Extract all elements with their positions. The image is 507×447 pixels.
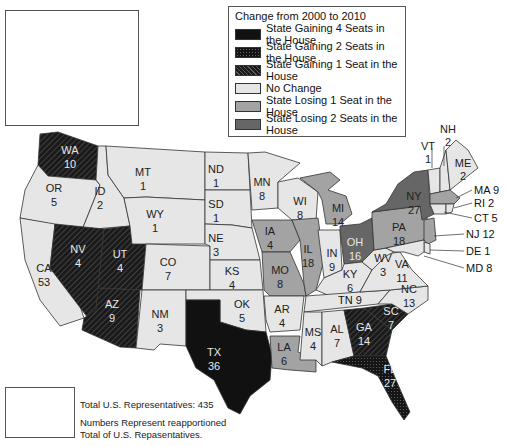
svg-text:NY: NY — [406, 190, 422, 202]
legend-label: State Losing 2 Seats in the House — [266, 112, 399, 136]
svg-text:MO: MO — [271, 264, 289, 276]
label-wv: WV — [374, 252, 392, 264]
label-ia: IA — [265, 225, 276, 237]
label-wa: WA — [61, 144, 79, 156]
swatch-gain-2 — [235, 47, 261, 58]
label-mt: MT — [135, 166, 151, 178]
seats-al: 7 — [334, 337, 340, 349]
svg-text:NH: NH — [440, 123, 456, 135]
svg-text:FL: FL — [384, 363, 397, 375]
seats-il: 18 — [302, 257, 314, 269]
seats-or: 5 — [51, 196, 57, 208]
svg-text:1: 1 — [213, 212, 219, 224]
svg-text:2: 2 — [460, 170, 466, 182]
label-mo: MO — [271, 264, 289, 276]
svg-text:16: 16 — [349, 250, 361, 262]
state-ms — [300, 312, 322, 366]
seats-wi: 8 — [297, 209, 303, 221]
svg-text:CA: CA — [36, 262, 52, 274]
state-mt — [106, 146, 205, 200]
svg-text:MN: MN — [253, 176, 270, 188]
legend-label: No Change — [266, 82, 322, 94]
seats-ny: 27 — [408, 204, 420, 216]
svg-text:27: 27 — [408, 204, 420, 216]
state-fl — [332, 356, 410, 420]
svg-text:ND: ND — [208, 163, 224, 175]
svg-text:OR: OR — [46, 182, 63, 194]
seats-nh: 2 — [445, 136, 451, 148]
svg-text:WI: WI — [293, 195, 306, 207]
svg-text:WA: WA — [61, 144, 79, 156]
svg-text:3: 3 — [157, 322, 163, 334]
svg-text:6: 6 — [347, 282, 353, 294]
svg-text:MI: MI — [332, 202, 344, 214]
svg-text:2: 2 — [97, 199, 103, 211]
seats-mt: 1 — [140, 180, 146, 192]
label-sd: SD — [208, 198, 223, 210]
svg-text:6: 6 — [281, 355, 287, 367]
label-fl: FL — [384, 363, 397, 375]
svg-text:UT: UT — [113, 248, 128, 260]
seats-ca: 53 — [38, 276, 50, 288]
callout-nj: NJ 12 — [466, 228, 495, 240]
svg-text:AZ: AZ — [105, 298, 119, 310]
svg-text:7: 7 — [165, 270, 171, 282]
svg-text:7: 7 — [334, 337, 340, 349]
state-nj — [424, 218, 436, 244]
svg-text:WV: WV — [374, 252, 392, 264]
seats-wv: 3 — [380, 266, 386, 278]
seats-nc: 13 — [403, 297, 415, 309]
label-or: OR — [46, 182, 63, 194]
label-la: LA — [277, 341, 291, 353]
svg-text:1: 1 — [213, 177, 219, 189]
label-nh: NH — [440, 123, 456, 135]
callout-line-de — [430, 250, 464, 251]
label-wi: WI — [293, 195, 306, 207]
seats-ia: 4 — [267, 239, 273, 251]
svg-text:IL: IL — [303, 243, 312, 255]
seats-ks: 4 — [229, 279, 235, 291]
label-ga: GA — [356, 321, 373, 333]
svg-text:NV: NV — [70, 243, 86, 255]
svg-text:7: 7 — [388, 319, 394, 331]
svg-text:AR: AR — [274, 303, 289, 315]
svg-text:36: 36 — [208, 360, 220, 372]
label-pa: PA — [392, 221, 407, 233]
svg-text:8: 8 — [259, 190, 265, 202]
svg-text:2: 2 — [445, 136, 451, 148]
svg-text:5: 5 — [239, 312, 245, 324]
svg-text:9: 9 — [109, 312, 115, 324]
svg-text:MS: MS — [305, 326, 322, 338]
svg-text:NM: NM — [151, 308, 168, 320]
svg-text:KY: KY — [343, 268, 358, 280]
seats-la: 6 — [281, 355, 287, 367]
svg-text:18: 18 — [393, 235, 405, 247]
svg-text:8: 8 — [277, 278, 283, 290]
label-va: VA — [395, 258, 410, 270]
state-wa — [38, 132, 98, 180]
swatch-no-change — [235, 83, 261, 94]
swatch-gain-4 — [235, 29, 261, 40]
svg-text:9: 9 — [329, 261, 335, 273]
seats-fl: 27 — [384, 377, 396, 389]
svg-text:SC: SC — [383, 305, 398, 317]
svg-text:VT: VT — [421, 140, 435, 152]
label-ky: KY — [343, 268, 358, 280]
note-line-1: Numbers Represent reapportioned — [80, 417, 226, 428]
svg-text:OH: OH — [347, 236, 364, 248]
svg-text:1: 1 — [140, 180, 146, 192]
svg-text:3: 3 — [380, 266, 386, 278]
seats-wa: 10 — [64, 158, 76, 170]
svg-text:14: 14 — [332, 216, 344, 228]
seats-nd: 1 — [213, 177, 219, 189]
note-line-2: Total of U.S. Repasentatives. — [80, 429, 203, 440]
callout-ct: CT 5 — [474, 212, 498, 224]
svg-text:NC: NC — [401, 283, 417, 295]
seats-pa: 18 — [393, 235, 405, 247]
seats-ky: 6 — [347, 282, 353, 294]
svg-text:OK: OK — [234, 298, 251, 310]
svg-text:IA: IA — [265, 225, 276, 237]
label-nd: ND — [208, 163, 224, 175]
seats-co: 7 — [165, 270, 171, 282]
label-al: AL — [330, 323, 343, 335]
